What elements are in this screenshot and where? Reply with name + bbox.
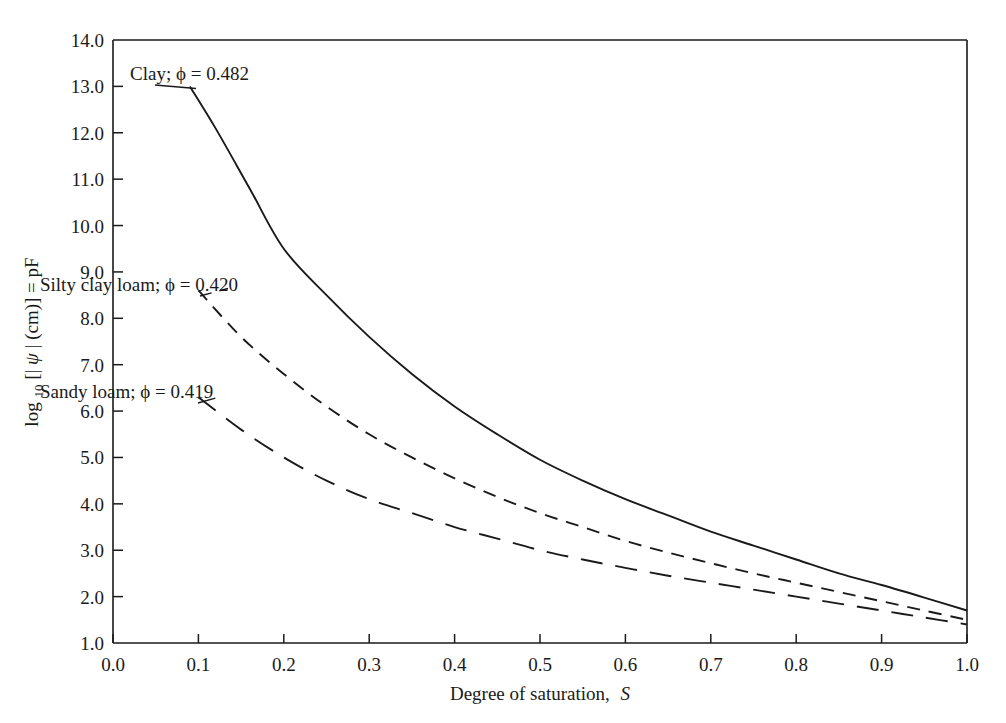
x-tick-label: 0.7	[699, 654, 723, 675]
y-axis-title-psi: ψ	[21, 352, 42, 365]
y-axis-title-close: | (cm)] = pF	[21, 257, 43, 348]
x-tick-label: 0.2	[272, 654, 296, 675]
x-axis-title-symbol: S	[621, 683, 631, 704]
y-tick-label: 7.0	[80, 355, 104, 376]
silty-clay-loam-annotation-label: Silty clay loam; ϕ = 0.420	[40, 274, 238, 295]
x-tick-label: 0.3	[357, 654, 381, 675]
y-tick-label: 14.0	[71, 30, 104, 51]
sandy-loam-annotation-label: Sandy loam; ϕ = 0.419	[40, 381, 213, 402]
soil-water-retention-chart: 0.00.10.20.30.40.50.60.70.80.91.0 1.02.0…	[0, 0, 1006, 723]
x-tick-label: 0.9	[870, 654, 894, 675]
y-tick-label: 6.0	[80, 401, 104, 422]
x-tick-label: 0.1	[187, 654, 211, 675]
x-tick-label: 0.8	[784, 654, 808, 675]
x-axis-title: Degree of saturation, S	[450, 683, 631, 704]
x-tick-label: 0.4	[443, 654, 467, 675]
clay-annotation-label: Clay; ϕ = 0.482	[130, 63, 249, 84]
chart-container: 0.00.10.20.30.40.50.60.70.80.91.0 1.02.0…	[0, 0, 1006, 723]
y-tick-label: 2.0	[80, 587, 104, 608]
x-tick-label: 0.6	[614, 654, 638, 675]
y-tick-label: 1.0	[80, 633, 104, 654]
y-axis-title-subscript: 10	[31, 385, 46, 398]
y-tick-label: 10.0	[71, 216, 104, 237]
y-tick-label: 3.0	[80, 540, 104, 561]
y-tick-label: 13.0	[71, 76, 104, 97]
x-tick-label: 0.0	[101, 654, 125, 675]
y-tick-label: 4.0	[80, 494, 104, 515]
x-tick-label: 0.5	[528, 654, 552, 675]
chart-background	[0, 0, 1006, 723]
y-tick-label: 5.0	[80, 447, 104, 468]
y-axis-title-open: [|	[21, 370, 42, 380]
y-tick-label: 11.0	[71, 169, 104, 190]
y-tick-label: 12.0	[71, 123, 104, 144]
x-axis-title-text: Degree of saturation,	[450, 683, 610, 704]
y-tick-label: 8.0	[80, 308, 104, 329]
y-axis-title-log: log	[21, 402, 42, 427]
x-tick-label: 1.0	[955, 654, 979, 675]
